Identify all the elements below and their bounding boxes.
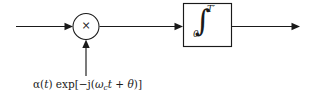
output-signal-arrow (232, 23, 301, 30)
integral-lower-limit: 0 (193, 30, 199, 39)
integral-upper-limit-prime: ′ (213, 4, 215, 14)
integrator-label: ∫ T′ 0 (186, 5, 230, 45)
lo-plus: + (112, 78, 127, 90)
local-oscillator-arrow (82, 40, 89, 77)
lo-omega: ω (95, 78, 104, 90)
lo-exp-open: ) exp[−j( (48, 78, 95, 90)
input-signal-arrow (16, 23, 73, 30)
integral-upper-limit: T′ (207, 5, 215, 14)
multiply-icon: × (78, 18, 94, 34)
lo-close: )] (134, 78, 142, 90)
intermediate-signal-arrow (100, 23, 184, 30)
lo-alpha: α( (33, 78, 44, 90)
block-diagram: × ∫ T′ 0 α(t) exp[−j(ωct + θ)] (0, 0, 314, 100)
local-oscillator-label: α(t) exp[−j(ωct + θ)] (0, 78, 175, 94)
